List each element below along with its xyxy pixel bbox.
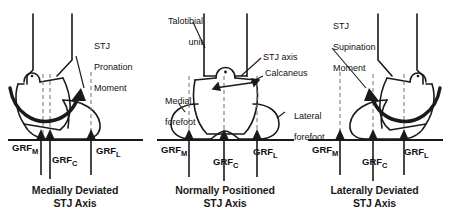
caption-line1: Medially Deviated bbox=[32, 184, 118, 196]
grf-label-lateral: GRFL bbox=[96, 145, 121, 156]
pronation-moment-arrow bbox=[10, 88, 86, 121]
grf-label-medial: GRFM bbox=[12, 142, 38, 153]
supination-moment-arrow bbox=[364, 88, 440, 121]
stj-axis-point bbox=[417, 75, 420, 78]
caption-line1: Laterally Deviated bbox=[330, 184, 418, 196]
moment-label-line1: STJ bbox=[94, 41, 110, 51]
moment-label-line2: Supination bbox=[333, 42, 376, 52]
tibia-lateral-border bbox=[417, 14, 423, 76]
stj-axis-point bbox=[224, 71, 227, 74]
tibia-medial-border bbox=[378, 14, 392, 76]
talotibial-unit-label: Talotibial unit bbox=[151, 5, 203, 58]
caption-line2: STJ Axis bbox=[0, 197, 150, 210]
moment-label-line3: Moment bbox=[333, 63, 366, 73]
stj-axis-point bbox=[31, 75, 34, 78]
panel-laterally-deviated: STJ Supination Moment GRFM GRFC GRFL Lat… bbox=[300, 0, 449, 224]
caption-line2: STJ Axis bbox=[300, 197, 449, 210]
caption-medially-deviated: Medially Deviated STJ Axis bbox=[0, 184, 150, 209]
grf-label-medial: GRFM bbox=[161, 144, 187, 155]
grf-label-lateral: GRFL bbox=[253, 146, 278, 157]
panel-normally-positioned: Talotibial unit STJ axis Calcaneus Media… bbox=[149, 0, 301, 224]
stj-axis-leader bbox=[241, 58, 261, 76]
stj-axis-figure: STJ Pronation Moment GRFM GRFC GRFL Medi… bbox=[0, 0, 449, 224]
caption-line1: Normally Positioned bbox=[175, 184, 275, 196]
caption-normally-positioned: Normally Positioned STJ Axis bbox=[149, 184, 301, 209]
calcaneus-body bbox=[194, 80, 258, 134]
grf-label-medial: GRFM bbox=[312, 144, 338, 155]
stj-axis-arrow bbox=[213, 79, 259, 90]
tibia-medial-border bbox=[27, 14, 33, 76]
caption-line2: STJ Axis bbox=[149, 197, 301, 210]
grf-label-lateral: GRFL bbox=[404, 146, 429, 157]
grf-label-center: GRFC bbox=[213, 156, 238, 167]
grf-label-center: GRFC bbox=[362, 156, 387, 167]
moment-label-line3: Moment bbox=[94, 83, 127, 93]
stj-supination-moment-label: STJ Supination Moment bbox=[318, 10, 376, 84]
grf-label-center: GRFC bbox=[52, 154, 77, 165]
moment-label-line2: Pronation bbox=[94, 62, 133, 72]
panel-medially-deviated: STJ Pronation Moment GRFM GRFC GRFL Medi… bbox=[0, 0, 150, 224]
tibia-lateral-border bbox=[57, 14, 72, 76]
moment-label-line1: STJ bbox=[333, 21, 349, 31]
caption-laterally-deviated: Laterally Deviated STJ Axis bbox=[300, 184, 449, 209]
medial-forefoot-label: Medial forefoot bbox=[150, 85, 196, 138]
stj-axis-label: STJ axis bbox=[263, 52, 298, 63]
stj-pronation-moment-label: STJ Pronation Moment bbox=[79, 30, 133, 104]
